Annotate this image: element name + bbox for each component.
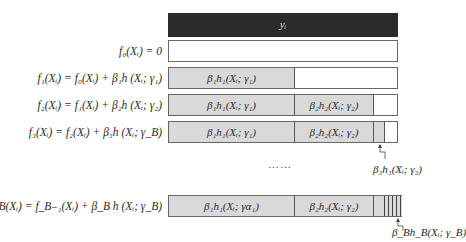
- equation-fB: f_B(Xᵢ) = f_B₋₁(Xᵢ) + β_B h (Xᵢ; γ_B): [0, 199, 162, 213]
- segment-betaB-hB: [374, 196, 402, 216]
- segment-beta1-h1: β₁h₁(Xᵢ; γ₁): [169, 122, 295, 142]
- segment-beta2-h2: β₂h₂(Xᵢ; γ₂): [295, 95, 374, 115]
- equation-f0: f₀(Xᵢ) = 0: [119, 44, 162, 58]
- equation-f1: f₁(Xᵢ) = f₀(Xᵢ) + β₁h (Xᵢ; γ₁): [37, 71, 162, 85]
- hatch-line: [388, 196, 389, 216]
- bar-f2: β₁h₁(Xᵢ; γ₁) β₂h₂(Xᵢ; γ₂): [168, 94, 398, 116]
- segment-beta3-h3: [374, 122, 385, 142]
- equation-f3: f₃(Xᵢ) = f₂(Xᵢ) + β₃h (Xᵢ; γ_B): [29, 125, 162, 139]
- segment-beta1-h1: β₁h₁(Xᵢ; γα₁): [169, 196, 295, 216]
- target-label: yᵢ: [169, 18, 397, 30]
- hatch-line: [396, 196, 397, 216]
- segment-beta1-h1: β₁h₁(Xᵢ; γ₁): [169, 68, 295, 88]
- annotation-betaB-hB: β_Bh_B(Xᵢ; γ_B): [392, 226, 466, 238]
- segment-beta1-h1: β₁h₁(Xᵢ; γ₁): [169, 95, 295, 115]
- annotation-arrow-f3: [378, 143, 398, 163]
- hatch-line: [384, 196, 385, 216]
- bar-f1: β₁h₁(Xᵢ; γ₁): [168, 67, 398, 89]
- bar-f0: [168, 40, 398, 62]
- hatch-line: [392, 196, 393, 216]
- equation-f2: f₂(Xᵢ) = f₁(Xᵢ) + β₂h (Xᵢ; γ₂): [37, 98, 162, 112]
- segment-beta2-h2: β₂h₂(Xᵢ; γ₂): [295, 196, 374, 216]
- annotation-beta3-h3: β₃h₃(Xᵢ; γ₃): [373, 163, 422, 175]
- target-bar-y: yᵢ: [168, 13, 398, 37]
- segment-beta2-h2: β₂h₂(Xᵢ; γ₂): [295, 122, 374, 142]
- bar-f3: β₁h₁(Xᵢ; γ₁) β₂h₂(Xᵢ; γ₂): [168, 121, 398, 143]
- ellipsis: ……: [268, 158, 292, 170]
- bar-fB: β₁h₁(Xᵢ; γα₁) β₂h₂(Xᵢ; γ₂): [168, 195, 402, 217]
- hatch-line: [400, 196, 401, 216]
